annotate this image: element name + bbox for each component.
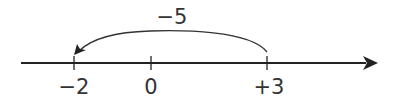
- jump-arrowhead-icon: [74, 44, 86, 55]
- jump-label: −5: [157, 5, 188, 29]
- number-line-diagram: −5 −2 0 +3: [0, 0, 402, 112]
- tick-label-0: 0: [144, 75, 157, 99]
- jump-arc: [79, 31, 267, 52]
- tick-label-plus-3: +3: [254, 75, 285, 99]
- tick-label-minus-2: −2: [59, 75, 90, 99]
